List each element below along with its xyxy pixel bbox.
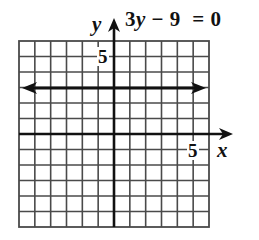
y-tick-label-5: 5 bbox=[97, 47, 109, 66]
x-tick-label-5: 5 bbox=[187, 141, 199, 160]
equation-coefficient: 3 bbox=[125, 7, 136, 31]
coordinate-plane bbox=[0, 0, 259, 240]
equation-rest: − 9 = 0 bbox=[146, 7, 222, 31]
equation-variable: y bbox=[136, 7, 146, 31]
y-axis-label: y bbox=[92, 14, 101, 35]
x-axis-label: x bbox=[217, 140, 228, 161]
equation-label: 3y − 9 = 0 bbox=[125, 7, 222, 32]
